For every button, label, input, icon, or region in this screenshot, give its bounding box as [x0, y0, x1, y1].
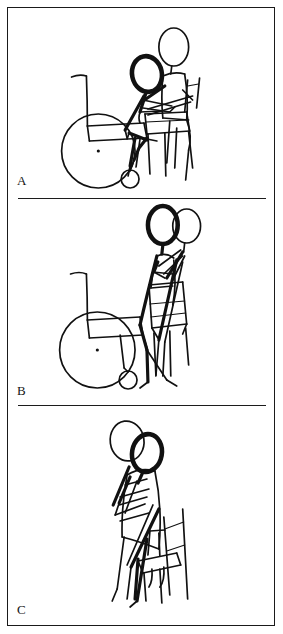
- wheelchair-group-b: [60, 273, 147, 390]
- panel-divider-2: [18, 405, 266, 406]
- panel-divider-1: [18, 198, 266, 199]
- figure-panel-c: C: [8, 409, 274, 625]
- panel-c-illustration: [8, 409, 274, 625]
- patient-figure-b: [140, 206, 183, 388]
- panel-label-c: C: [17, 603, 26, 616]
- figure-frame: A: [7, 7, 275, 626]
- caregiver-figure-a: [143, 28, 193, 180]
- panel-label-a: A: [17, 174, 27, 187]
- figure-panel-a: A: [8, 8, 274, 199]
- figure-panel-b: B: [8, 200, 274, 408]
- panel-a-illustration: [8, 8, 274, 199]
- panel-label-b: B: [17, 384, 26, 397]
- panel-b-illustration: [8, 200, 274, 408]
